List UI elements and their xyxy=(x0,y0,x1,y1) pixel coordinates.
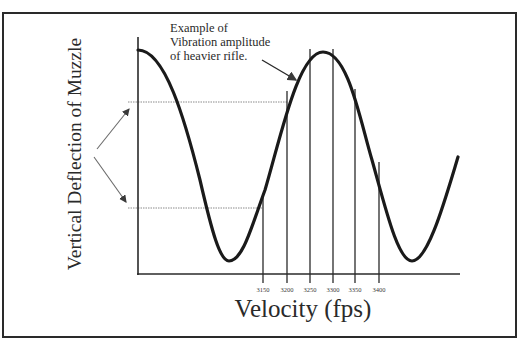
y-axis-label: Vertical Deflection of Muzzle xyxy=(64,38,85,270)
vibration-diagram: Example of Vibration amplitude of heavie… xyxy=(0,0,521,353)
velocity-marker-lines xyxy=(263,49,379,283)
x-axis-label: Velocity (fps) xyxy=(235,295,372,323)
tick-label-3250: 3250 xyxy=(304,286,317,293)
annotation-line-3: of heavier rifle. xyxy=(170,49,247,63)
lower-bracket-arrow xyxy=(94,157,126,202)
annotation-line-1: Example of xyxy=(170,21,229,35)
tick-label-3200: 3200 xyxy=(281,286,294,293)
annotation-line-2: Vibration amplitude xyxy=(170,35,271,49)
upper-bracket-arrow xyxy=(97,109,129,149)
tick-label-3350: 3350 xyxy=(349,286,362,293)
annotation-arrow xyxy=(262,60,296,80)
diagram-canvas: Example of Vibration amplitude of heavie… xyxy=(0,0,521,353)
vibration-curve xyxy=(138,50,458,261)
x-tick-labels: 3150 3200 3250 3300 3350 3400 xyxy=(257,286,386,293)
tick-label-3400: 3400 xyxy=(373,286,386,293)
tick-label-3300: 3300 xyxy=(327,286,340,293)
tick-label-3150: 3150 xyxy=(257,286,270,293)
